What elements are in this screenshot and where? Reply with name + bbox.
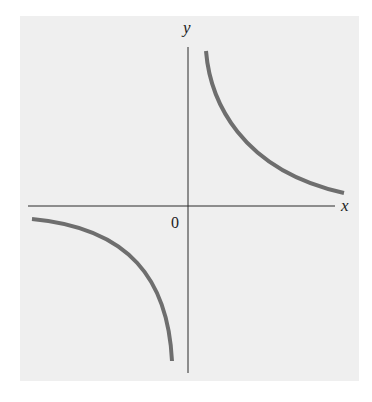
curve-branch-quadrant-1 <box>206 51 344 193</box>
origin-label: 0 <box>171 214 179 232</box>
curve-branch-quadrant-3 <box>32 219 172 361</box>
x-axis-label: x <box>341 196 349 216</box>
y-axis-label: y <box>183 18 191 38</box>
hyperbola-plot <box>0 0 372 402</box>
